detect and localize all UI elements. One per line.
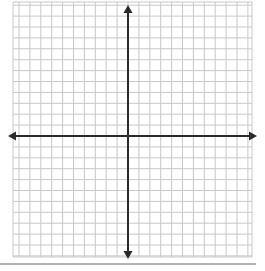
coordinate-plane: [0, 0, 265, 271]
arrow-up-icon: [124, 5, 133, 13]
grid-lines: [13, 2, 252, 257]
arrow-left-icon: [8, 132, 16, 141]
arrow-down-icon: [124, 251, 133, 259]
axes: [8, 5, 257, 259]
arrow-right-icon: [249, 132, 257, 141]
